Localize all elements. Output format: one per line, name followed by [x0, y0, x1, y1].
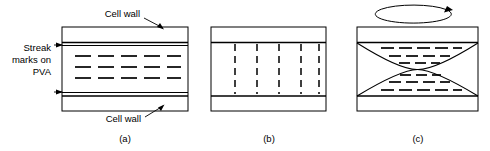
cell-wall-top-label: Cell wall [105, 8, 140, 19]
streak-label-line1: Streak [24, 42, 52, 53]
cell-wall-bottom-label: Cell wall [106, 113, 141, 124]
figure-container: Cell wall Cell wall Streak marks on PVA … [0, 0, 490, 151]
panel-c [357, 5, 478, 111]
caption-c: (c) [412, 133, 423, 144]
panel-a-outline [62, 27, 188, 111]
streak-label-line2: marks on [12, 54, 51, 65]
caption-a: (a) [119, 133, 131, 144]
streak-label-line3: PVA [33, 66, 52, 77]
rotation-arrow [375, 5, 453, 23]
panel-b [211, 27, 326, 111]
panel-b-outline [211, 27, 326, 111]
panel-a [62, 27, 188, 111]
diagram-svg: Cell wall Cell wall Streak marks on PVA … [0, 0, 490, 151]
rotation-arrow-arc [375, 5, 451, 23]
caption-b: (b) [263, 133, 275, 144]
